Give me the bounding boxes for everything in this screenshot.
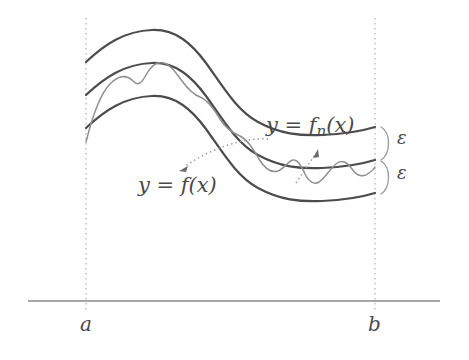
- lower-band-curve: [86, 96, 375, 201]
- label-sequence-function: y = fn(x): [266, 113, 355, 140]
- epsilon-label-upper: ε: [397, 127, 407, 148]
- epsilon-lower-brace: [381, 161, 389, 194]
- axis-label-b: b: [368, 312, 381, 336]
- epsilon-label-lower: ε: [397, 162, 407, 183]
- epsilon-upper-brace: [381, 127, 389, 160]
- leader-arrowhead-fn: [313, 149, 319, 158]
- axis-label-a: a: [80, 312, 92, 336]
- uniform-convergence-figure: y = fn(x) y = f(x) a b ε ε: [0, 0, 469, 360]
- label-limit-function: y = f(x): [138, 173, 217, 197]
- label-sequence-function-subscript: n: [317, 122, 327, 140]
- leader-arrowhead-f: [179, 166, 188, 172]
- label-sequence-function-suffix: (x): [326, 113, 354, 137]
- label-sequence-function-prefix: y = f: [266, 113, 317, 137]
